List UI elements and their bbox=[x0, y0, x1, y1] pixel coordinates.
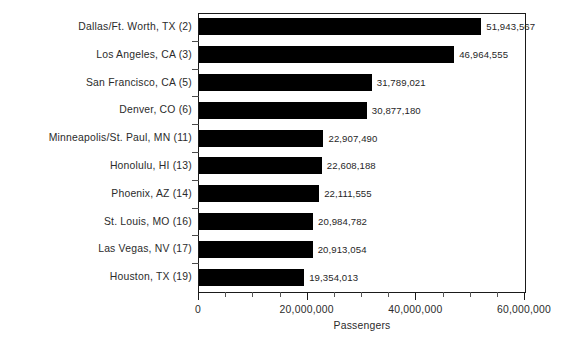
category-label: Houston, TX (19) bbox=[0, 271, 192, 283]
bar-value-label: 22,907,490 bbox=[328, 130, 377, 147]
x-axis-major-tick bbox=[524, 292, 525, 300]
bar-value-label: 31,789,021 bbox=[377, 74, 426, 91]
x-axis-minor-tick bbox=[280, 292, 281, 297]
bar bbox=[199, 130, 323, 147]
x-axis-minor-tick bbox=[470, 292, 471, 297]
bars-layer: 51,943,56746,964,55531,789,02130,877,180… bbox=[199, 13, 525, 291]
bar bbox=[199, 157, 322, 174]
category-label: Honolulu, HI (13) bbox=[0, 160, 192, 172]
x-axis-minor-tick bbox=[388, 292, 389, 297]
bar bbox=[199, 269, 304, 286]
y-axis-tick bbox=[192, 41, 199, 42]
category-label: Dallas/Ft. Worth, TX (2) bbox=[0, 21, 192, 33]
category-label: Las Vegas, NV (17) bbox=[0, 243, 192, 255]
y-axis-tick bbox=[192, 96, 199, 97]
x-axis-title: Passengers bbox=[198, 320, 526, 331]
category-label: St. Louis, MO (16) bbox=[0, 216, 192, 228]
category-label: Denver, CO (6) bbox=[0, 104, 192, 116]
y-axis-tick bbox=[192, 263, 199, 264]
x-axis-minor-tick bbox=[225, 292, 226, 297]
y-axis-tick bbox=[192, 152, 199, 153]
x-axis-tick-label: 40,000,000 bbox=[388, 303, 442, 317]
x-axis-minor-tick bbox=[497, 292, 498, 297]
category-axis-labels: Dallas/Ft. Worth, TX (2)Los Angeles, CA … bbox=[0, 13, 192, 291]
bar bbox=[199, 185, 319, 202]
bar-value-label: 46,964,555 bbox=[459, 46, 508, 63]
x-axis-minor-tick bbox=[443, 292, 444, 297]
bar-value-label: 51,943,567 bbox=[486, 18, 535, 35]
bar-value-label: 20,913,054 bbox=[318, 241, 367, 258]
x-axis-minor-tick bbox=[252, 292, 253, 297]
x-axis-major-tick bbox=[415, 292, 416, 300]
bar bbox=[199, 46, 454, 63]
x-axis-ticks bbox=[198, 292, 526, 302]
x-axis-minor-tick bbox=[334, 292, 335, 297]
y-axis-tick bbox=[192, 235, 199, 236]
bar bbox=[199, 18, 481, 35]
bar-chart: Dallas/Ft. Worth, TX (2)Los Angeles, CA … bbox=[0, 0, 584, 355]
x-axis-major-tick bbox=[198, 292, 199, 300]
x-axis-tick-labels: 020,000,00040,000,00060,000,000 bbox=[0, 303, 584, 319]
x-axis-major-tick bbox=[307, 292, 308, 300]
x-axis-tick-label: 0 bbox=[195, 303, 201, 317]
category-label: Minneapolis/St. Paul, MN (11) bbox=[0, 132, 192, 144]
bar bbox=[199, 213, 313, 230]
x-axis-minor-tick bbox=[361, 292, 362, 297]
category-label: San Francisco, CA (5) bbox=[0, 77, 192, 89]
bar-value-label: 20,984,782 bbox=[318, 213, 367, 230]
bar-value-label: 19,354,013 bbox=[309, 269, 358, 286]
bar-value-label: 22,608,188 bbox=[327, 157, 376, 174]
bar-value-label: 30,877,180 bbox=[372, 102, 421, 119]
y-axis-tick bbox=[192, 208, 199, 209]
bar-value-label: 22,111,555 bbox=[324, 185, 372, 202]
x-axis-tick-label: 60,000,000 bbox=[497, 303, 551, 317]
y-axis-tick bbox=[192, 124, 199, 125]
bar bbox=[199, 241, 313, 258]
category-label: Phoenix, AZ (14) bbox=[0, 188, 192, 200]
bar bbox=[199, 102, 367, 119]
category-label: Los Angeles, CA (3) bbox=[0, 49, 192, 61]
x-axis-tick-label: 20,000,000 bbox=[280, 303, 334, 317]
y-axis-tick bbox=[192, 180, 199, 181]
bar bbox=[199, 74, 372, 91]
y-axis-tick bbox=[192, 69, 199, 70]
